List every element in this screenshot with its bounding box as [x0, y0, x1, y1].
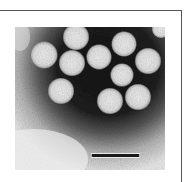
figure-frame-right-border	[181, 10, 182, 182]
scale-bar	[92, 154, 139, 157]
virus-particle	[59, 50, 85, 76]
micrograph-image	[15, 27, 165, 170]
figure-frame-top-border	[0, 10, 182, 11]
virus-particle	[87, 45, 112, 70]
virus-particle	[31, 42, 58, 69]
virus-particle	[135, 48, 161, 74]
virus-particle	[111, 64, 134, 87]
virus-particle	[125, 84, 151, 110]
virus-particle	[112, 32, 137, 57]
virus-particle	[48, 78, 74, 104]
virus-particle	[97, 88, 123, 114]
